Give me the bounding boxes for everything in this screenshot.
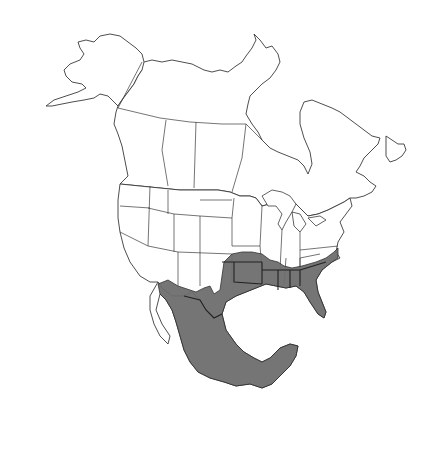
newfoundland-outline bbox=[386, 136, 406, 162]
north-america-range-map bbox=[0, 0, 440, 449]
